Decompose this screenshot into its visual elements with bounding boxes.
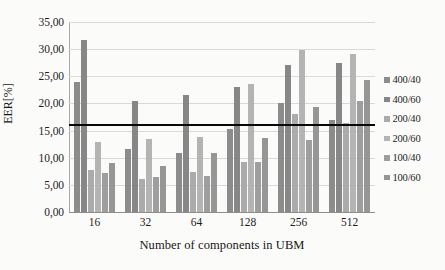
- bar-group: [69, 22, 120, 212]
- bar: [329, 120, 335, 212]
- legend-item[interactable]: 100/60: [384, 168, 444, 188]
- legend-swatch-icon: [384, 155, 390, 161]
- y-tick-label: 10,00: [18, 152, 64, 164]
- x-tick-label: 32: [120, 216, 172, 228]
- chart-figure: EER[%] 0,005,0010,0015,0020,0025,0030,00…: [0, 0, 445, 270]
- bar: [197, 137, 203, 212]
- bar: [95, 142, 101, 212]
- bar: [255, 162, 261, 212]
- x-tick-label: 256: [273, 216, 325, 228]
- x-tick-label: 64: [171, 216, 223, 228]
- bar: [132, 101, 138, 212]
- bar: [227, 129, 233, 212]
- bar: [343, 123, 349, 212]
- bar: [81, 40, 87, 212]
- legend-swatch-icon: [384, 77, 390, 83]
- bar: [102, 173, 108, 212]
- bar: [176, 153, 182, 212]
- bar: [262, 138, 268, 212]
- legend-swatch-icon: [384, 136, 390, 142]
- bar: [74, 82, 80, 212]
- bar: [292, 114, 298, 212]
- bar: [139, 179, 145, 212]
- legend-item[interactable]: 400/40: [384, 70, 444, 90]
- bar: [234, 87, 240, 212]
- legend-label: 400/40: [393, 74, 421, 85]
- plot-area: [69, 22, 375, 212]
- bar-group: [171, 22, 222, 212]
- bar: [285, 65, 291, 212]
- bar: [183, 95, 189, 212]
- x-tick-label: 512: [324, 216, 376, 228]
- bar: [357, 101, 363, 212]
- bar-groups: [69, 22, 375, 212]
- bar: [153, 177, 159, 212]
- bar: [299, 50, 305, 212]
- bar: [211, 153, 217, 212]
- y-tick-label: 5,00: [18, 179, 64, 191]
- bar: [313, 107, 319, 212]
- legend-item[interactable]: 400/60: [384, 90, 444, 110]
- bar: [146, 139, 152, 212]
- bar: [350, 54, 356, 213]
- bar: [278, 103, 284, 212]
- y-tick-label: 15,00: [18, 125, 64, 137]
- bar: [204, 176, 210, 212]
- bar: [160, 166, 166, 212]
- legend-label: 400/60: [393, 94, 421, 105]
- legend-item[interactable]: 200/40: [384, 109, 444, 129]
- legend-label: 100/60: [393, 172, 421, 183]
- bar: [241, 162, 247, 212]
- bar-group: [222, 22, 273, 212]
- bar: [125, 149, 131, 212]
- bar: [364, 80, 370, 212]
- legend-label: 200/40: [393, 113, 421, 124]
- bar: [248, 84, 254, 212]
- reference-line: [69, 124, 375, 126]
- x-axis-title: Number of components in UBM: [69, 238, 375, 253]
- x-tick-label: 16: [69, 216, 121, 228]
- bar: [336, 63, 342, 212]
- legend-swatch-icon: [384, 116, 390, 122]
- legend-label: 200/60: [393, 133, 421, 144]
- y-axis-title: EER[%]: [1, 83, 16, 124]
- bar: [88, 170, 94, 212]
- bar-group: [273, 22, 324, 212]
- y-tick-label: 25,00: [18, 70, 64, 82]
- legend-swatch-icon: [384, 97, 390, 103]
- x-tick-label: 128: [222, 216, 274, 228]
- y-tick-label: 35,00: [18, 16, 64, 28]
- bar-group: [120, 22, 171, 212]
- legend-item[interactable]: 100/40: [384, 148, 444, 168]
- legend-swatch-icon: [384, 175, 390, 181]
- bar-group: [324, 22, 375, 212]
- legend-item[interactable]: 200/60: [384, 129, 444, 149]
- bar: [306, 140, 312, 212]
- bar: [190, 172, 196, 212]
- y-tick-label: 30,00: [18, 43, 64, 55]
- y-tick-label: 20,00: [18, 97, 64, 109]
- gridline-0-00: [69, 212, 375, 213]
- y-tick-label: 0,00: [18, 206, 64, 218]
- bar: [109, 163, 115, 212]
- legend: 400/40400/60200/40200/60100/40100/60: [384, 70, 444, 187]
- legend-label: 100/40: [393, 152, 421, 163]
